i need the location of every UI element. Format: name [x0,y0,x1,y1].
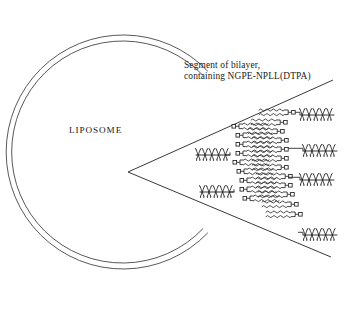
polymer-chelator-chain [302,228,337,240]
polymer-chelator-chain [299,173,334,185]
liposome-outline [6,35,208,269]
liposome-diagram-canvas: LIPOSOME Segment of bilayer, containing … [0,0,348,309]
bilayer-right-leaflet [248,109,302,218]
label-liposome: LIPOSOME [69,125,122,135]
polymer-chelator-chain [302,144,337,156]
polymer-chelator-left-group [195,148,234,197]
polymer-chelator-chain [299,108,334,120]
liposome-inner-wall [12,41,203,263]
polymer-chelator-right-group [299,108,337,240]
polymer-chelator-chain [195,148,230,160]
callout-label-line-1: Segment of bilayer, [184,60,260,70]
callout-label-line-2: containing NGPE-NPLL(DTPA) [184,71,311,82]
bilayer-callout-wedge [128,80,333,257]
liposome-outer-wall [6,35,208,269]
figure-root: LIPOSOME Segment of bilayer, containing … [0,0,348,309]
polymer-chelator-chain [199,185,234,197]
wedge-upper-edge [128,80,333,172]
